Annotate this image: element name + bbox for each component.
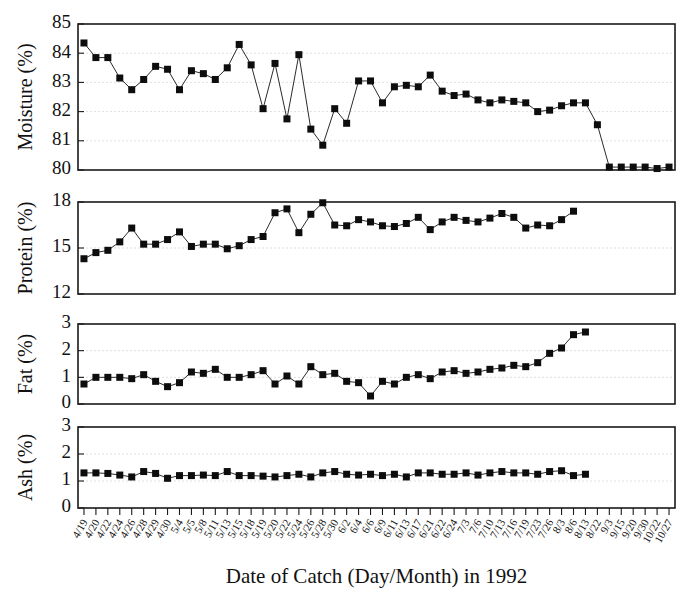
data-point[interactable]	[128, 86, 135, 93]
data-point[interactable]	[367, 471, 374, 478]
data-point[interactable]	[474, 472, 481, 479]
data-point[interactable]	[283, 205, 290, 212]
data-point[interactable]	[212, 472, 219, 479]
data-point[interactable]	[104, 374, 111, 381]
data-point[interactable]	[618, 164, 625, 171]
data-point[interactable]	[140, 468, 147, 475]
data-point[interactable]	[176, 379, 183, 386]
data-point[interactable]	[152, 470, 159, 477]
data-point[interactable]	[116, 238, 123, 245]
data-point[interactable]	[498, 365, 505, 372]
data-point[interactable]	[212, 241, 219, 248]
data-point[interactable]	[224, 64, 231, 71]
data-point[interactable]	[260, 367, 267, 374]
data-point[interactable]	[128, 375, 135, 382]
data-point[interactable]	[439, 88, 446, 95]
data-point[interactable]	[427, 469, 434, 476]
data-point[interactable]	[200, 370, 207, 377]
data-point[interactable]	[642, 164, 649, 171]
data-point[interactable]	[176, 472, 183, 479]
data-point[interactable]	[498, 468, 505, 475]
data-point[interactable]	[319, 469, 326, 476]
data-point[interactable]	[319, 199, 326, 206]
data-point[interactable]	[272, 60, 279, 67]
data-point[interactable]	[224, 374, 231, 381]
data-point[interactable]	[200, 70, 207, 77]
data-point[interactable]	[80, 469, 87, 476]
data-point[interactable]	[403, 473, 410, 480]
data-point[interactable]	[534, 222, 541, 229]
data-point[interactable]	[248, 61, 255, 68]
data-point[interactable]	[295, 471, 302, 478]
data-point[interactable]	[474, 218, 481, 225]
data-point[interactable]	[486, 215, 493, 222]
data-point[interactable]	[272, 381, 279, 388]
data-point[interactable]	[295, 229, 302, 236]
data-point[interactable]	[343, 120, 350, 127]
data-point[interactable]	[570, 472, 577, 479]
data-point[interactable]	[522, 99, 529, 106]
data-point[interactable]	[606, 164, 613, 171]
data-point[interactable]	[104, 54, 111, 61]
data-point[interactable]	[283, 472, 290, 479]
data-point[interactable]	[439, 471, 446, 478]
data-point[interactable]	[164, 66, 171, 73]
data-point[interactable]	[92, 469, 99, 476]
data-point[interactable]	[236, 374, 243, 381]
data-point[interactable]	[212, 366, 219, 373]
data-point[interactable]	[164, 383, 171, 390]
data-point[interactable]	[224, 468, 231, 475]
data-point[interactable]	[558, 102, 565, 109]
data-point[interactable]	[403, 82, 410, 89]
data-point[interactable]	[272, 209, 279, 216]
data-point[interactable]	[463, 217, 470, 224]
data-point[interactable]	[355, 472, 362, 479]
data-point[interactable]	[164, 236, 171, 243]
data-point[interactable]	[188, 369, 195, 376]
data-point[interactable]	[260, 105, 267, 112]
data-point[interactable]	[630, 164, 637, 171]
data-point[interactable]	[486, 366, 493, 373]
data-point[interactable]	[128, 225, 135, 232]
data-point[interactable]	[188, 472, 195, 479]
data-point[interactable]	[355, 379, 362, 386]
data-point[interactable]	[367, 393, 374, 400]
data-point[interactable]	[272, 473, 279, 480]
data-point[interactable]	[200, 472, 207, 479]
data-point[interactable]	[116, 472, 123, 479]
data-point[interactable]	[522, 225, 529, 232]
data-point[interactable]	[80, 255, 87, 262]
data-point[interactable]	[152, 378, 159, 385]
data-point[interactable]	[403, 220, 410, 227]
data-point[interactable]	[104, 247, 111, 254]
data-point[interactable]	[379, 222, 386, 229]
data-point[interactable]	[474, 369, 481, 376]
data-point[interactable]	[260, 473, 267, 480]
data-point[interactable]	[379, 378, 386, 385]
data-point[interactable]	[582, 471, 589, 478]
data-point[interactable]	[558, 216, 565, 223]
data-point[interactable]	[534, 359, 541, 366]
data-point[interactable]	[666, 164, 673, 171]
data-point[interactable]	[558, 467, 565, 474]
data-point[interactable]	[474, 96, 481, 103]
data-point[interactable]	[439, 369, 446, 376]
data-point[interactable]	[343, 378, 350, 385]
data-point[interactable]	[307, 363, 314, 370]
data-point[interactable]	[355, 216, 362, 223]
data-point[interactable]	[415, 469, 422, 476]
data-point[interactable]	[654, 165, 661, 172]
data-point[interactable]	[307, 211, 314, 218]
data-point[interactable]	[200, 241, 207, 248]
data-point[interactable]	[212, 76, 219, 83]
data-point[interactable]	[570, 99, 577, 106]
data-point[interactable]	[331, 222, 338, 229]
data-point[interactable]	[391, 83, 398, 90]
data-point[interactable]	[498, 210, 505, 217]
data-point[interactable]	[319, 142, 326, 149]
data-point[interactable]	[391, 223, 398, 230]
data-point[interactable]	[534, 108, 541, 115]
data-point[interactable]	[331, 370, 338, 377]
data-point[interactable]	[236, 41, 243, 48]
data-point[interactable]	[80, 39, 87, 46]
